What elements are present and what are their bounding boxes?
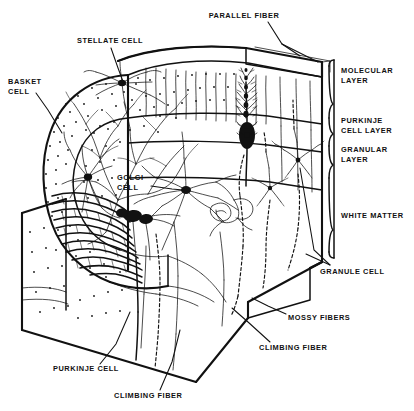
climbing-fiber-left-dashed: [155, 234, 160, 368]
label-molecular-layer-line1: MOLECULAR: [341, 66, 393, 75]
leader-basket-cell: [36, 93, 62, 133]
granule-axon-dashed: [264, 100, 294, 152]
stellate-cell: [84, 62, 165, 108]
purkinje-soma-cluster: [116, 209, 153, 225]
label-golgi-cell-line2: CELL: [117, 183, 139, 192]
leader-climbing-fiber-bottom: [160, 330, 180, 390]
label-granule-cell: GRANULE CELL: [320, 267, 385, 276]
purkinje-dendritic-tree: [236, 68, 257, 138]
climbing-fiber-solid-trunks: [141, 222, 224, 370]
label-basket-cell-line1: BASKET: [8, 77, 42, 86]
label-climbing-fiber-right: CLIMBING FIBER: [259, 343, 328, 352]
golgi-axon-plexus: [210, 182, 253, 236]
label-white-matter: WHITE MATTER: [341, 211, 404, 220]
label-stellate-cell: STELLATE CELL: [77, 36, 143, 45]
cerebellar-cortex-figure: PARALLEL FIBER STELLATE CELL BASKET CELL…: [0, 0, 414, 411]
label-purkinje-cell: PURKINJE CELL: [53, 364, 119, 373]
leader-lines: [36, 22, 330, 390]
label-granular-layer-line2: LAYER: [341, 155, 368, 164]
fine-dendritic-twigs: [66, 90, 198, 166]
layer-bracket-group: [329, 60, 334, 258]
label-molecular-layer-line2: LAYER: [341, 76, 368, 85]
label-purkinje-cell-layer-line2: CELL LAYER: [341, 126, 392, 135]
label-basket-cell-line2: CELL: [8, 87, 30, 96]
leader-granule-cell: [300, 168, 330, 265]
purkinje-cell: [239, 122, 255, 186]
diagram-canvas: PARALLEL FIBER STELLATE CELL BASKET CELL…: [0, 0, 414, 411]
label-parallel-fiber: PARALLEL FIBER: [209, 11, 280, 20]
label-purkinje-cell-layer-line1: PURKINJE: [341, 116, 383, 125]
granule-cell-2: [252, 152, 288, 206]
label-granular-layer-line1: GRANULAR: [341, 145, 388, 154]
leader-purkinje-cell: [100, 312, 130, 364]
label-mossy-fibers: MOSSY FIBERS: [288, 313, 350, 322]
granule-cell-group: [252, 129, 324, 206]
mossy-fiber-dashed-paths: [263, 174, 300, 288]
parallel-fiber-bundle: [146, 68, 311, 130]
basket-cell: [62, 132, 119, 212]
label-climbing-fiber-bottom: CLIMBING FIBER: [114, 391, 183, 400]
purkinje-axon-descending: [136, 258, 138, 360]
label-golgi-cell-line1: GOLGI: [117, 173, 144, 182]
